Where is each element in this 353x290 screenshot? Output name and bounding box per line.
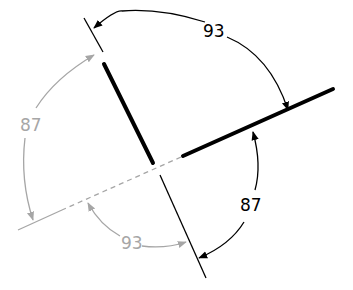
label-top-93: 93	[203, 21, 225, 41]
line-b-gray-solid	[18, 210, 62, 230]
arc-left-87-down	[24, 138, 33, 220]
arc-bottom-93-up	[88, 203, 120, 236]
arc-right-87-up	[253, 132, 258, 190]
label-left-87: 87	[20, 115, 42, 135]
angle-diagram: 93 87 87 93	[0, 0, 353, 290]
arc-bottom-93-right	[142, 242, 186, 247]
line-a-thin-bottom	[160, 175, 206, 278]
label-bottom-93: 93	[121, 233, 143, 253]
arc-left-87-up	[36, 55, 94, 108]
line-b-thick	[183, 89, 333, 156]
arc-top-93-left	[122, 10, 205, 22]
label-right-87: 87	[240, 195, 262, 215]
diagram-canvas: 93 87 87 93	[0, 0, 353, 290]
line-a-thick	[104, 64, 153, 163]
arc-top-93-right	[227, 37, 288, 110]
arc-right-87-down	[199, 222, 244, 258]
arc-top-93	[94, 11, 122, 28]
